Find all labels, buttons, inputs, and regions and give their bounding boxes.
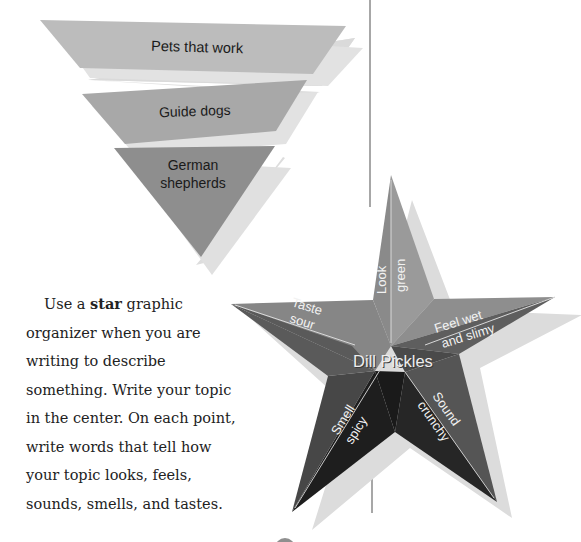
star-point-look-detail: green xyxy=(393,259,408,292)
star-point-look-sense: Look xyxy=(374,265,389,294)
star-center-label: Dill Pickles xyxy=(353,352,433,370)
star-organizer: Look green Feel wet and slimy Sound crun… xyxy=(0,0,581,542)
